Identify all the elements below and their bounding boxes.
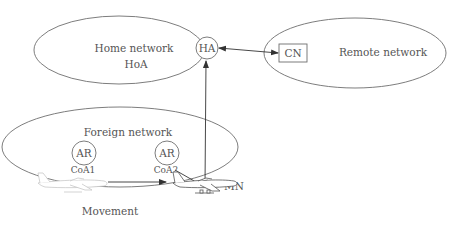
home-address-label: HoA: [124, 58, 147, 70]
mn-ha-arrow: [205, 61, 206, 186]
access-router-1-label: AR: [75, 147, 93, 159]
correspondent-node-label: CN: [284, 47, 301, 59]
airplane-faded-icon: [38, 173, 107, 192]
mobile-ip-diagram: Home network HoA HA Remote network CN Fo…: [0, 0, 468, 231]
access-router-2-label: AR: [158, 147, 176, 159]
foreign-network-label: Foreign network: [84, 126, 173, 138]
home-network: Home network HoA: [34, 16, 204, 84]
remote-network-label: Remote network: [339, 46, 428, 58]
movement-label: Movement: [82, 205, 139, 217]
access-router-1: AR CoA1: [71, 141, 96, 175]
home-agent-label: HA: [199, 42, 216, 54]
home-network-label: Home network: [95, 42, 175, 54]
home-agent-node: HA: [196, 37, 218, 59]
ha-cn-arrow: [219, 48, 278, 53]
coa1-label: CoA1: [71, 165, 96, 175]
foreign-network: Foreign network: [2, 107, 238, 187]
correspondent-node: CN: [279, 44, 307, 62]
